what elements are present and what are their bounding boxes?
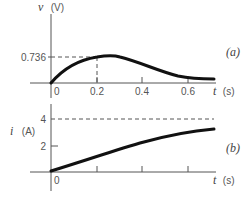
panel-a-ylabel: v (V) xyxy=(38,0,64,14)
panel-b-xlabel: t (s) xyxy=(213,170,234,187)
panel-a-label: (a) xyxy=(226,45,240,59)
panel-a-xtick-0.6: 0.6 xyxy=(181,86,195,97)
panel-b-ylabel: i (A) xyxy=(10,121,35,138)
panel-a-xtick-0.2: 0.2 xyxy=(90,86,104,97)
panel-b-xtick-0: 0 xyxy=(54,175,60,186)
panel-a: v (V) 0.736 0 0.2 0.4 0.6 t (s) (a) xyxy=(21,0,240,98)
panel-b-ytick-4-label: 4 xyxy=(40,114,46,125)
panel-a-xtick-0: 0 xyxy=(54,86,60,97)
voltage-curve xyxy=(51,56,214,84)
panel-a-ytick-label: 0.736 xyxy=(21,52,46,63)
current-curve xyxy=(51,129,214,171)
panel-b-label: (b) xyxy=(226,141,240,155)
chart-figure: v (V) 0.736 0 0.2 0.4 0.6 t (s) (a) i (A… xyxy=(0,0,252,205)
panel-a-xtick-0.4: 0.4 xyxy=(135,86,149,97)
panel-a-xlabel: t (s) xyxy=(213,81,234,98)
panel-b: i (A) 4 2 0 t (s) (b) xyxy=(10,104,240,191)
panel-b-ytick-2-label: 2 xyxy=(40,141,46,152)
